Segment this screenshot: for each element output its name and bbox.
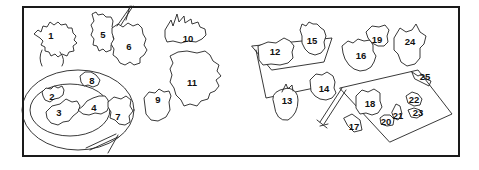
label-10: 10 <box>183 33 194 44</box>
label-14: 14 <box>319 83 330 94</box>
label-11: 11 <box>187 77 198 88</box>
label-23: 23 <box>413 107 424 118</box>
label-16: 16 <box>356 50 367 61</box>
label-4: 4 <box>91 102 97 113</box>
label-24: 24 <box>405 36 416 47</box>
vegetable-3 <box>46 99 80 125</box>
label-21: 21 <box>393 110 404 121</box>
label-2: 2 <box>49 91 54 102</box>
vegetable-1 <box>34 22 77 57</box>
label-9: 9 <box>155 94 160 105</box>
label-18: 18 <box>365 98 376 109</box>
label-12: 12 <box>270 46 281 57</box>
label-25: 25 <box>420 71 431 82</box>
vegetable-7-stalks <box>86 134 118 153</box>
label-1: 1 <box>48 30 54 41</box>
vegetable-6-stalks <box>117 6 133 26</box>
label-19: 19 <box>372 34 383 45</box>
label-17: 17 <box>349 121 360 132</box>
label-15: 15 <box>307 35 318 46</box>
label-22: 22 <box>409 94 420 105</box>
label-20: 20 <box>381 116 392 127</box>
label-5: 5 <box>100 29 106 40</box>
label-7: 7 <box>115 111 120 122</box>
label-6: 6 <box>126 41 131 52</box>
vegetable-line-drawing: 1 2 3 4 5 6 7 8 9 10 11 12 13 14 15 16 1… <box>0 0 479 170</box>
label-8: 8 <box>89 75 94 86</box>
label-13: 13 <box>282 95 293 106</box>
label-3: 3 <box>56 107 61 118</box>
